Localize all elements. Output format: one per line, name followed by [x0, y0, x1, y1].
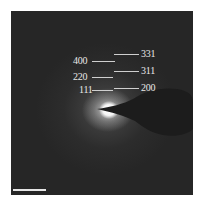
ring-marker-311: [114, 71, 139, 72]
ring-label-311: 311: [141, 66, 155, 76]
beam-stop-icon: [11, 11, 193, 195]
ring-marker-400: [92, 61, 115, 62]
ring-label-331: 331: [141, 49, 155, 59]
ring-label-220: 220: [73, 72, 87, 82]
diffraction-pattern-image: 400 220 111 331 311 200: [11, 11, 193, 195]
ring-label-200: 200: [141, 83, 155, 93]
ring-marker-331: [114, 54, 139, 55]
ring-marker-111: [92, 90, 113, 91]
ring-marker-220: [92, 77, 113, 78]
ring-label-400: 400: [73, 56, 87, 66]
ring-marker-200: [114, 88, 139, 89]
scale-bar: [13, 189, 46, 191]
ring-label-111: 111: [79, 85, 93, 95]
